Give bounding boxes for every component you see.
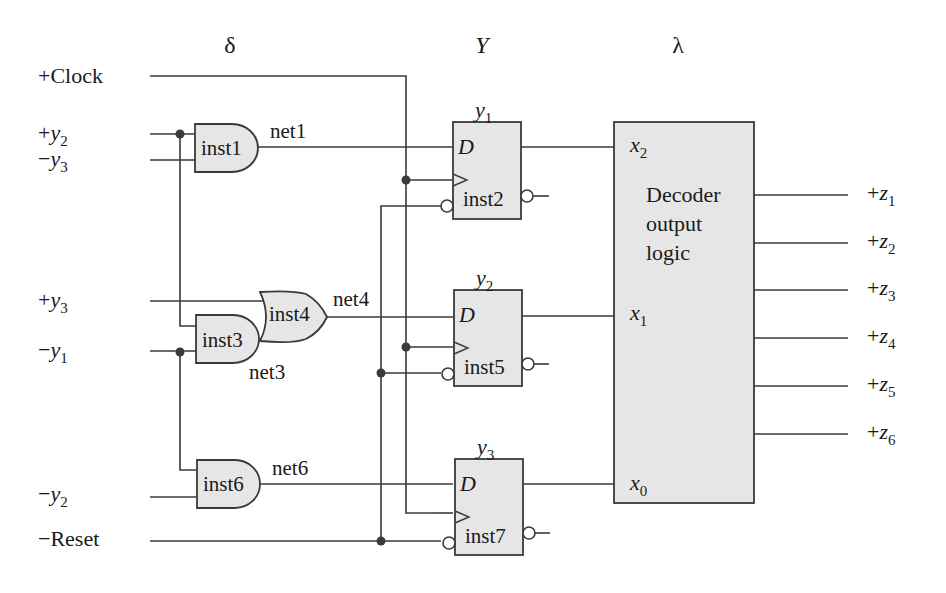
- state-variable-label: y3: [475, 434, 494, 463]
- qbar-bubble-icon: [523, 527, 535, 539]
- wire-plus-y2-branch: [180, 134, 196, 326]
- output-label-z5: +z5: [867, 371, 895, 400]
- qbar-bubble-icon: [521, 190, 533, 202]
- gate-label-inst1: inst1: [201, 136, 242, 160]
- state-variable-label: y1: [473, 97, 492, 126]
- flipflop-column: Dinst2y1Dinst5y2Dinst7y3: [441, 97, 535, 555]
- decoder-title-line-2: output: [646, 211, 702, 236]
- input-label-minus-y1: −y1: [38, 337, 68, 366]
- input-label-clock: +Clock: [38, 63, 103, 88]
- input-label-reset: −Reset: [38, 526, 99, 551]
- flipflop-inst2[interactable]: Dinst2y1: [441, 97, 533, 219]
- decoder-block[interactable]: Decoder output logic x2 x1 x0: [614, 122, 754, 503]
- flipflop-label: inst5: [464, 355, 505, 379]
- gate-inst6-and[interactable]: inst6: [197, 460, 260, 508]
- decoder-output-wires: [754, 195, 848, 434]
- output-label-z4: +z4: [867, 323, 896, 352]
- flipflop-inst5[interactable]: Dinst5y2: [442, 265, 534, 386]
- junction-dot: [176, 130, 185, 139]
- reset-bubble-icon: [442, 368, 454, 380]
- net-label-net1: net1: [270, 119, 306, 143]
- d-input-label: D: [457, 134, 474, 159]
- junction-dot: [377, 369, 386, 378]
- output-labels: +z1+z2+z3+z4+z5+z6: [867, 180, 896, 448]
- gate-label-inst6: inst6: [203, 472, 244, 496]
- reset-bubble-icon: [441, 200, 453, 212]
- input-label-minus-y2: −y2: [38, 481, 68, 510]
- header-delta: δ: [224, 32, 235, 58]
- qbar-bubble-icon: [522, 358, 534, 370]
- header-lambda: λ: [672, 32, 684, 58]
- input-label-plus-y3: +y3: [38, 287, 68, 316]
- junction-dot: [176, 348, 185, 357]
- output-label-z2: +z2: [867, 228, 895, 257]
- net-label-net3: net3: [249, 360, 285, 384]
- flipflop-label: inst2: [463, 187, 504, 211]
- decoder-title-line-1: Decoder: [646, 182, 721, 207]
- decoder-title-line-3: logic: [646, 240, 690, 265]
- junction-dot: [402, 176, 411, 185]
- gate-label-inst4: inst4: [269, 302, 310, 326]
- junction-dot: [402, 343, 411, 352]
- flipflop-inst7[interactable]: Dinst7y3: [443, 434, 535, 555]
- state-variable-label: y2: [474, 265, 493, 294]
- input-label-minus-y3: −y3: [38, 146, 68, 175]
- gate-inst3-and[interactable]: inst3: [196, 315, 259, 363]
- output-label-z1: +z1: [867, 180, 895, 209]
- output-label-z6: +z6: [867, 419, 896, 448]
- d-input-label: D: [458, 302, 475, 327]
- d-input-label: D: [459, 471, 476, 496]
- input-label-plus-y2: +y2: [38, 120, 68, 149]
- moore-machine-schematic: δ Y λ +Clock +y2 −y3 +y3 −y1 −y2 −Reset: [0, 0, 946, 593]
- wire-minus-y1-branch: [180, 351, 196, 470]
- junction-dot: [377, 537, 386, 546]
- header-Y: Y: [475, 32, 491, 58]
- net-label-net4: net4: [333, 287, 370, 311]
- flipflop-label: inst7: [465, 524, 506, 548]
- net-label-net6: net6: [272, 456, 308, 480]
- output-label-z3: +z3: [867, 275, 895, 304]
- reset-bubble-icon: [443, 537, 455, 549]
- gate-label-inst3: inst3: [202, 328, 243, 352]
- gate-inst1-and[interactable]: inst1: [195, 124, 258, 172]
- gate-inst4-or[interactable]: inst4: [260, 291, 327, 342]
